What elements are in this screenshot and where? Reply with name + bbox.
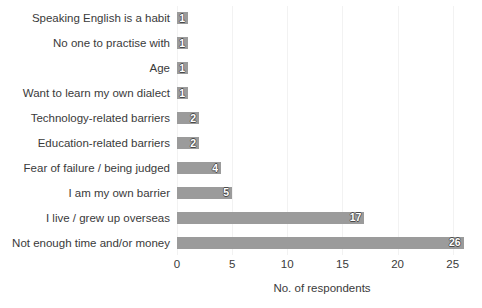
bar-chart: Speaking English is a habit1No one to pr… [0, 0, 482, 308]
bar: 1 [177, 62, 188, 74]
bar-value-label: 1 [179, 38, 188, 49]
bar-row: I am my own barrier5 [177, 180, 467, 205]
bar-row: No one to practise with1 [177, 31, 467, 56]
bar-row: Education-related barriers2 [177, 131, 467, 156]
bar-value-label: 4 [212, 163, 221, 174]
bar-value-label: 26 [449, 237, 464, 248]
bar-row: Want to learn my own dialect1 [177, 81, 467, 106]
category-label: I live / grew up overseas [46, 211, 170, 224]
category-label: Speaking English is a habit [32, 12, 170, 25]
bar: 5 [177, 187, 232, 199]
bar-row: Technology-related barriers2 [177, 106, 467, 131]
bar-value-label: 2 [190, 113, 199, 124]
bar-value-label: 1 [179, 13, 188, 24]
bar-value-label: 5 [223, 187, 232, 198]
bar: 17 [177, 212, 364, 224]
x-tick-label: 20 [391, 257, 404, 271]
plot-area: Speaking English is a habit1No one to pr… [177, 6, 467, 255]
bar: 26 [177, 237, 464, 249]
bar-value-label: 17 [350, 212, 365, 223]
x-axis-title: No. of respondents [177, 281, 467, 295]
category-label: Not enough time and/or money [12, 236, 170, 249]
bar-value-label: 2 [190, 138, 199, 149]
bar: 1 [177, 12, 188, 24]
x-tick-label: 10 [281, 257, 294, 271]
bar-row: Age1 [177, 56, 467, 81]
category-label: Age [150, 62, 170, 75]
category-label: I am my own barrier [68, 186, 170, 199]
category-label: No one to practise with [53, 37, 170, 50]
bar-value-label: 1 [179, 88, 188, 99]
x-tick-label: 5 [229, 257, 235, 271]
category-label: Want to learn my own dialect [23, 87, 170, 100]
bar-row: Fear of failure / being judged4 [177, 155, 467, 180]
bar: 4 [177, 162, 221, 174]
category-label: Education-related barriers [38, 136, 170, 149]
bar: 1 [177, 87, 188, 99]
bar-value-label: 1 [179, 63, 188, 74]
bar-row: Not enough time and/or money26 [177, 230, 467, 255]
x-tick-label: 25 [446, 257, 459, 271]
category-label: Technology-related barriers [31, 112, 170, 125]
bar-row: Speaking English is a habit1 [177, 6, 467, 31]
bar: 2 [177, 137, 199, 149]
x-tick-label: 15 [336, 257, 349, 271]
bar-row: I live / grew up overseas17 [177, 205, 467, 230]
category-label: Fear of failure / being judged [24, 161, 170, 174]
bar: 1 [177, 37, 188, 49]
x-tick-label: 0 [174, 257, 180, 271]
bar: 2 [177, 112, 199, 124]
